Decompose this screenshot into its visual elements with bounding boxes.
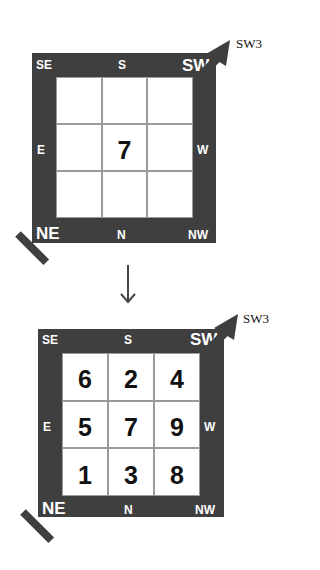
grid-cell — [56, 77, 102, 124]
grid-cell — [102, 171, 148, 218]
sw3-pointer-arrow-icon — [200, 36, 240, 76]
label-s: S — [118, 59, 126, 71]
label-se: SE — [42, 334, 58, 346]
label-e: E — [37, 144, 45, 156]
grid-after: 6 2 4 5 7 9 1 3 8 — [62, 353, 200, 496]
grid-cell: 4 — [154, 353, 200, 401]
grid-cell: 8 — [154, 448, 200, 496]
label-se: SE — [36, 59, 52, 71]
grid-cell: 6 — [62, 353, 108, 401]
sw3-pointer-arrow-icon — [208, 310, 248, 350]
grid-cell: 7 — [102, 124, 148, 171]
label-n: N — [124, 504, 133, 516]
grid-cell: 1 — [62, 448, 108, 496]
grid-cell — [147, 171, 193, 218]
label-s: S — [124, 334, 132, 346]
sw3-label: SW3 — [243, 311, 269, 327]
grid-cell — [56, 171, 102, 218]
grid-cell: 5 — [62, 401, 108, 449]
down-arrow-icon — [119, 264, 137, 304]
sw3-label: SW3 — [236, 36, 262, 52]
grid-cell — [102, 77, 148, 124]
label-ne: NE — [42, 500, 66, 517]
grid-cell: 9 — [154, 401, 200, 449]
grid-cell: 2 — [108, 353, 154, 401]
grid-cell — [147, 124, 193, 171]
grid-before: 7 — [56, 77, 193, 218]
label-nw: NW — [188, 229, 208, 241]
grid-cell — [56, 124, 102, 171]
label-w: W — [197, 144, 208, 156]
label-w: W — [204, 421, 215, 433]
label-ne: NE — [36, 225, 60, 242]
label-n: N — [117, 229, 126, 241]
grid-cell: 7 — [108, 401, 154, 449]
label-nw: NW — [195, 504, 215, 516]
grid-cell: 3 — [108, 448, 154, 496]
label-e: E — [43, 421, 51, 433]
grid-cell — [147, 77, 193, 124]
